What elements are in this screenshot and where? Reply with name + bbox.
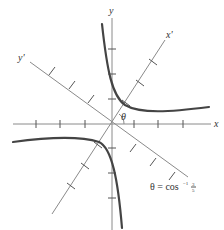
svg-text:θ = cos: θ = cos: [150, 181, 179, 192]
y-prime-axis-label: y': [17, 52, 25, 63]
svg-text:3: 3: [192, 182, 195, 187]
hyperbola-rotated-axes-diagram: x y x' y' θ θ = cos −1 3 5: [0, 0, 224, 230]
angle-theta-label: θ: [121, 111, 126, 122]
x-axis-label: x: [213, 118, 219, 129]
svg-text:−1: −1: [183, 181, 189, 186]
hyperbola-upper-right-branch: [102, 24, 209, 111]
x-prime-axis-label: x': [165, 29, 173, 40]
angle-equation: θ = cos −1 3 5: [150, 181, 196, 193]
y-axis-label: y: [108, 5, 114, 16]
svg-text:5: 5: [192, 188, 195, 193]
y-prime-axis: [30, 62, 188, 177]
